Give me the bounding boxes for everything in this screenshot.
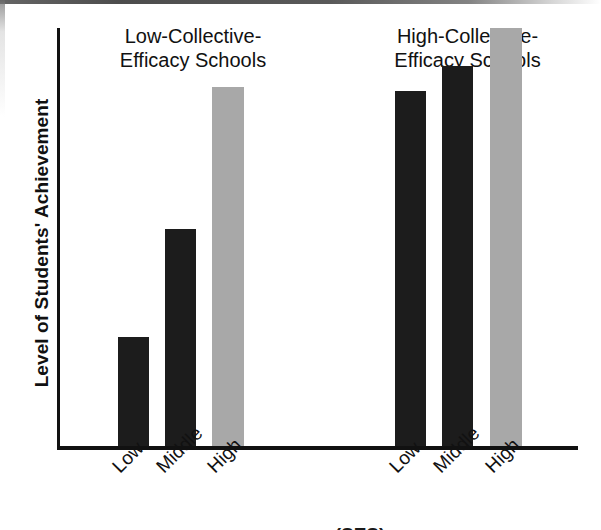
plot-area xyxy=(60,28,578,446)
bar-high-efficacy-high xyxy=(490,28,522,446)
chart-figure: Level of Students' Achievement Low-Colle… xyxy=(0,0,601,530)
y-axis-title: Level of Students' Achievement xyxy=(31,73,53,413)
bar-low-efficacy-high xyxy=(212,87,244,446)
bar-low-efficacy-low xyxy=(118,337,149,446)
bar-high-efficacy-low xyxy=(395,91,426,446)
bar-low-efficacy-middle xyxy=(165,229,196,446)
scan-artifact-top xyxy=(0,0,601,4)
clipped-caption: (SES) xyxy=(150,524,570,530)
bar-high-efficacy-middle xyxy=(442,66,473,446)
scan-artifact-left xyxy=(0,0,5,530)
